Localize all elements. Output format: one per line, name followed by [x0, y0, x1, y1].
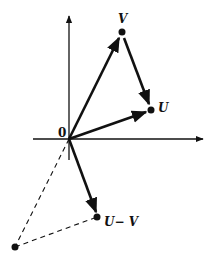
label-v: V — [118, 13, 127, 25]
label-u: U — [158, 102, 168, 114]
point-v — [119, 29, 126, 36]
label-origin: 0 — [58, 127, 66, 139]
dashed-origin-to-minus-v — [15, 139, 69, 247]
point-u — [148, 107, 155, 114]
point-minus-v — [12, 244, 19, 251]
point-u-minus-v — [94, 214, 101, 221]
vector-u-minus-v — [69, 139, 96, 212]
vector-v-to-u — [124, 38, 149, 104]
label-u-minus-v: U− V — [104, 216, 138, 228]
